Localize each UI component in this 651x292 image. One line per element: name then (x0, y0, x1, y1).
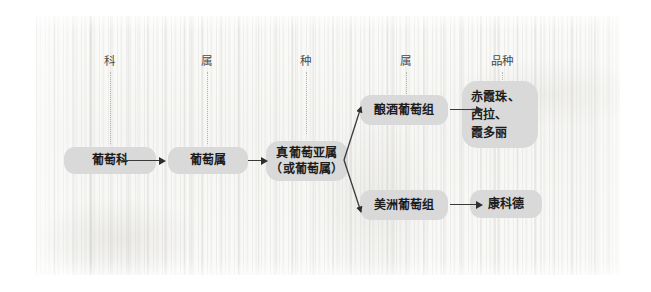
node-subgenus-line2: （或葡萄属） (270, 161, 343, 177)
arrow-subgenus-to-wine-group (344, 104, 366, 162)
taxonomy-diagram: 科 属 种 属 品种 葡萄科 葡萄属 真葡萄亚属 （或葡萄属） 酿酒葡萄组 美洲… (0, 0, 651, 292)
guide-line-species (306, 72, 307, 134)
arrow-genus-to-subgenus (248, 156, 268, 165)
node-varieties-line1: 赤霞珠、 (471, 88, 520, 106)
column-header-family: 科 (104, 55, 116, 68)
column-header-species: 种 (300, 55, 312, 68)
arrow-subgenus-to-american-group (344, 158, 366, 216)
node-varieties[interactable]: 赤霞珠、 西拉、 霞多丽 (462, 81, 538, 148)
arrow-family-to-genus (120, 156, 166, 165)
guide-line-section (406, 72, 407, 94)
column-header-genus: 属 (201, 55, 213, 68)
node-subgenus[interactable]: 真葡萄亚属 （或葡萄属） (266, 141, 348, 181)
column-header-variety: 品种 (491, 55, 514, 68)
arrow-american-group-to-concord (450, 200, 484, 209)
node-varieties-line3: 霞多丽 (471, 124, 520, 142)
guide-line-genus (207, 72, 208, 144)
node-subgenus-line1: 真葡萄亚属 (270, 145, 343, 161)
node-american-group[interactable]: 美洲葡萄组 (360, 190, 448, 220)
node-wine-group[interactable]: 酿酒葡萄组 (360, 95, 448, 125)
column-header-section: 属 (400, 55, 412, 68)
node-genus[interactable]: 葡萄属 (168, 147, 248, 174)
arrow-wine-group-to-varieties (450, 105, 484, 114)
guide-line-family (110, 72, 111, 144)
